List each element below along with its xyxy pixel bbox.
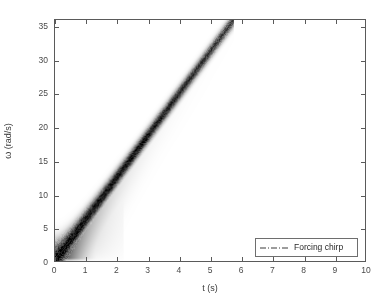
x-tick-label: 2 xyxy=(114,265,119,275)
y-tick xyxy=(55,27,59,28)
x-tick xyxy=(273,20,274,24)
y-tick-label: 35 xyxy=(39,21,48,31)
y-tick xyxy=(361,229,365,230)
y-tick xyxy=(55,162,59,163)
y-tick xyxy=(55,196,59,197)
y-tick xyxy=(361,162,365,163)
y-tick-label: 15 xyxy=(39,156,48,166)
y-tick-label: 10 xyxy=(39,190,48,200)
y-tick xyxy=(361,61,365,62)
x-tick xyxy=(211,257,212,261)
y-tick xyxy=(361,27,365,28)
x-tick-label: 8 xyxy=(301,265,306,275)
y-axis-label: ω (rad/s) xyxy=(3,123,13,159)
y-tick xyxy=(55,61,59,62)
x-tick xyxy=(305,257,306,261)
legend-box: Forcing chirp xyxy=(255,238,358,257)
x-tick-label: 5 xyxy=(208,265,213,275)
y-tick xyxy=(361,94,365,95)
x-tick-label: 1 xyxy=(83,265,88,275)
dash-dot-line-icon xyxy=(260,244,290,252)
x-tick-label: 6 xyxy=(239,265,244,275)
x-tick xyxy=(273,257,274,261)
y-tick xyxy=(361,128,365,129)
y-tick xyxy=(55,94,59,95)
x-tick xyxy=(305,20,306,24)
x-tick-label: 3 xyxy=(145,265,150,275)
x-tick xyxy=(336,20,337,24)
y-tick-label: 20 xyxy=(39,122,48,132)
x-tick-label: 0 xyxy=(52,265,57,275)
x-tick-label: 10 xyxy=(361,265,370,275)
y-tick xyxy=(55,229,59,230)
y-tick-label: 5 xyxy=(43,223,48,233)
legend-entry-label: Forcing chirp xyxy=(294,243,343,252)
x-axis-label: t (s) xyxy=(202,283,218,293)
spectrogram-image xyxy=(55,20,365,261)
y-tick xyxy=(55,128,59,129)
x-tick-label: 7 xyxy=(270,265,275,275)
x-tick xyxy=(242,20,243,24)
x-tick xyxy=(55,20,56,24)
x-tick xyxy=(55,257,56,261)
y-tick xyxy=(361,196,365,197)
x-tick xyxy=(86,257,87,261)
x-tick xyxy=(117,20,118,24)
y-tick-label: 0 xyxy=(43,257,48,267)
x-tick xyxy=(180,257,181,261)
x-tick xyxy=(180,20,181,24)
y-tick-label: 30 xyxy=(39,55,48,65)
x-tick-label: 4 xyxy=(176,265,181,275)
x-tick xyxy=(149,20,150,24)
x-tick xyxy=(211,20,212,24)
x-tick xyxy=(86,20,87,24)
x-tick-label: 9 xyxy=(332,265,337,275)
x-tick xyxy=(242,257,243,261)
plot-area xyxy=(54,19,366,262)
figure-canvas: 012345678910 05101520253035 t (s) ω (rad… xyxy=(0,0,387,302)
x-tick xyxy=(336,257,337,261)
y-tick-label: 25 xyxy=(39,88,48,98)
x-tick xyxy=(117,257,118,261)
x-tick xyxy=(149,257,150,261)
